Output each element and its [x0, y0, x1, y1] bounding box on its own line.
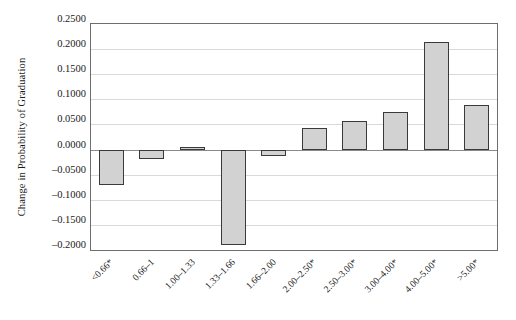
plot-area [90, 23, 498, 251]
y-axis-tick-label: 0.1500 [28, 64, 86, 74]
y-axis-tick-label: –0.1000 [28, 190, 86, 200]
bar [342, 121, 367, 149]
x-axis-tick-label: 2.00–2.50* [281, 257, 319, 295]
x-axis-tick-label: 1.00–1.33 [163, 257, 198, 292]
bar [261, 150, 286, 156]
y-axis-tick-label: 0.1000 [28, 89, 86, 99]
bar [139, 150, 164, 160]
x-axis-tick-label: 3.00–4.00* [362, 257, 400, 295]
x-axis-tick-label: >5.00* [455, 257, 482, 284]
bar-chart: Change in Probability of Graduation 0.25… [0, 0, 516, 320]
bar [302, 128, 327, 150]
x-axis-tick-label: 1.66–2.00 [244, 257, 279, 292]
y-axis-tick-label: 0.0000 [28, 140, 86, 150]
x-axis-tick-label: 1.33–1.66 [203, 257, 238, 292]
x-axis-tick-labels: <0.66*0.66–11.00–1.331.33–1.661.66–2.002… [90, 251, 498, 320]
bar [383, 112, 408, 149]
x-axis-tick-label: <0.66* [89, 257, 116, 284]
x-axis-tick-label: 0.66–1 [130, 257, 156, 283]
y-axis-tick-labels: 0.25000.20000.15000.10000.05000.0000–0.0… [28, 18, 86, 250]
x-axis-tick-label: 2.50–3.00* [322, 257, 360, 295]
bar [424, 42, 449, 150]
y-axis-tick-label: 0.2500 [28, 14, 86, 24]
x-axis-tick-label: 4.00–5.00* [403, 257, 441, 295]
bar [99, 150, 124, 185]
y-axis-tick-label: 0.2000 [28, 39, 86, 49]
y-axis-tick-label: –0.0500 [28, 165, 86, 175]
bars-layer [91, 24, 497, 250]
y-axis-tick-label: –0.2000 [28, 240, 86, 250]
bar [180, 147, 205, 149]
bar [221, 150, 246, 245]
bar [464, 105, 489, 150]
y-axis-tick-label: 0.0500 [28, 114, 86, 124]
y-axis-tick-label: –0.1500 [28, 215, 86, 225]
